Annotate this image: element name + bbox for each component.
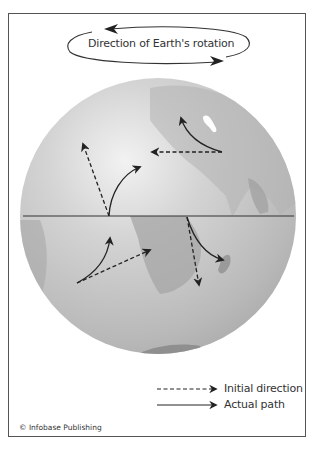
- copyright-credit: © Infobase Publishing: [19, 423, 102, 432]
- arrowhead-right-icon: [210, 56, 224, 66]
- globe: [20, 78, 300, 356]
- legend: [157, 389, 216, 405]
- legend-label-initial-direction: Initial direction: [224, 382, 303, 395]
- rotation-label: Direction of Earth's rotation: [88, 37, 230, 50]
- legend-label-actual-path: Actual path: [224, 398, 285, 411]
